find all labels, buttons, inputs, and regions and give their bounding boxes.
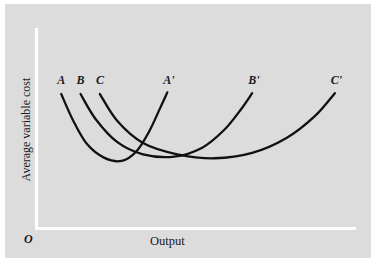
curve-label-b: B xyxy=(77,74,85,86)
curve-label-b-prime: B' xyxy=(248,74,259,86)
cost-curve-c-c- xyxy=(100,93,335,158)
origin-label: O xyxy=(24,232,33,247)
cost-curve-a-a- xyxy=(61,92,167,161)
y-axis-label: Average variable cost xyxy=(19,60,34,200)
cost-curves-group xyxy=(61,92,335,161)
chart-plot-area xyxy=(0,0,377,262)
curve-label-a: A xyxy=(57,74,65,86)
x-axis-label: Output xyxy=(150,234,185,249)
curve-label-c-prime: C' xyxy=(331,74,342,86)
figure-container: ABCA'B'C' Average variable cost Output O xyxy=(0,0,377,262)
curve-label-c: C xyxy=(96,74,104,86)
curve-label-a-prime: A' xyxy=(163,74,174,86)
